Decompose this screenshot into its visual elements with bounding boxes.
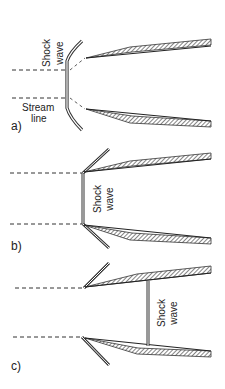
- shock-label-b-line1: Shock: [92, 184, 103, 213]
- streamline-deflect-lower: [70, 98, 85, 109]
- shock-label-b-line2: wave: [104, 187, 115, 212]
- panel-label-c: c): [11, 359, 21, 373]
- inlet-shock-diagram: Shock wave Stream line a) Shock wave b): [0, 0, 225, 389]
- bow-shock: [67, 41, 82, 130]
- panel-a: Shock wave Stream line a): [11, 38, 211, 133]
- panel-c: Shock wave c): [11, 263, 211, 373]
- shock-label-a-line1: Shock: [41, 38, 52, 67]
- streamline-label-line2: line: [31, 113, 47, 124]
- panel-label-a: a): [11, 119, 22, 133]
- inlet-lip-upper: [86, 39, 211, 58]
- streamline-label-line1: Stream: [22, 102, 54, 113]
- panel-label-b: b): [11, 239, 22, 253]
- panel-b: Shock wave b): [10, 149, 211, 253]
- inlet-lip-lower: [86, 109, 211, 127]
- shock-label-a-line2: wave: [54, 41, 65, 66]
- shock-label-c-line1: Shock: [156, 298, 167, 327]
- streamline-deflect-upper: [70, 58, 85, 70]
- shock-label-c-line2: wave: [168, 301, 179, 326]
